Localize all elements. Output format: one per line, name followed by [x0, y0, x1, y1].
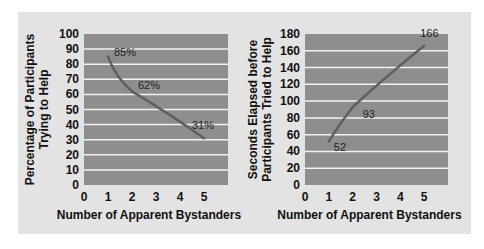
y-tick-label: 80: [66, 57, 80, 71]
y-tick-label: 20: [287, 161, 301, 175]
x-axis-title: Number of Apparent Bystanders: [57, 208, 242, 222]
y-tick-label: 0: [72, 178, 79, 192]
y-tick-label: 80: [287, 111, 301, 125]
y-tick-label: 40: [287, 144, 301, 158]
x-tick-label: 2: [129, 190, 136, 204]
y-axis-title: Percentage of Participants: [23, 33, 37, 185]
x-tick-label: 1: [325, 190, 332, 204]
x-tick-label: 5: [421, 190, 428, 204]
x-tick-label: 4: [397, 190, 404, 204]
y-axis-title: Trying to Help: [37, 69, 51, 149]
y-tick-label: 70: [66, 72, 80, 86]
x-tick-label: 5: [201, 190, 208, 204]
y-tick-label: 100: [59, 27, 79, 41]
x-tick-label: 3: [373, 190, 380, 204]
y-tick-label: 40: [66, 118, 80, 132]
y-tick-label: 120: [280, 77, 300, 91]
y-tick-label: 20: [66, 148, 80, 162]
y-tick-label: 90: [66, 42, 80, 56]
x-tick-label: 0: [81, 190, 88, 204]
data-label: 85%: [114, 46, 136, 58]
bystander-charts: 0102030405060708090100012345Number of Ap…: [0, 0, 484, 249]
y-tick-label: 50: [66, 103, 80, 117]
y-tick-label: 140: [280, 61, 300, 75]
data-label: 52: [334, 141, 346, 153]
y-axis-title: Participants Tried to Help: [260, 37, 274, 182]
data-label: 31%: [192, 119, 214, 131]
y-tick-label: 100: [280, 94, 300, 108]
chart-percentage-helping: 0102030405060708090100012345Number of Ap…: [23, 27, 241, 222]
chart-seconds-elapsed: 020406080100120140160180012345Number of …: [246, 27, 462, 222]
data-label: 166: [420, 27, 438, 39]
y-tick-label: 160: [280, 44, 300, 58]
y-axis-title: Seconds Elapsed before: [246, 39, 260, 179]
x-axis-title: Number of Apparent Bystanders: [277, 208, 462, 222]
y-tick-label: 60: [66, 87, 80, 101]
y-tick-label: 0: [293, 178, 300, 192]
y-tick-label: 60: [287, 128, 301, 142]
x-tick-label: 1: [105, 190, 112, 204]
plot-area: [305, 34, 448, 185]
x-tick-label: 2: [349, 190, 356, 204]
y-tick-label: 180: [280, 27, 300, 41]
y-tick-label: 30: [66, 133, 80, 147]
x-tick-label: 4: [177, 190, 184, 204]
y-tick-label: 10: [66, 163, 80, 177]
x-tick-label: 0: [302, 190, 309, 204]
x-tick-label: 3: [153, 190, 160, 204]
data-label: 62%: [138, 79, 160, 91]
data-label: 93: [363, 108, 375, 120]
